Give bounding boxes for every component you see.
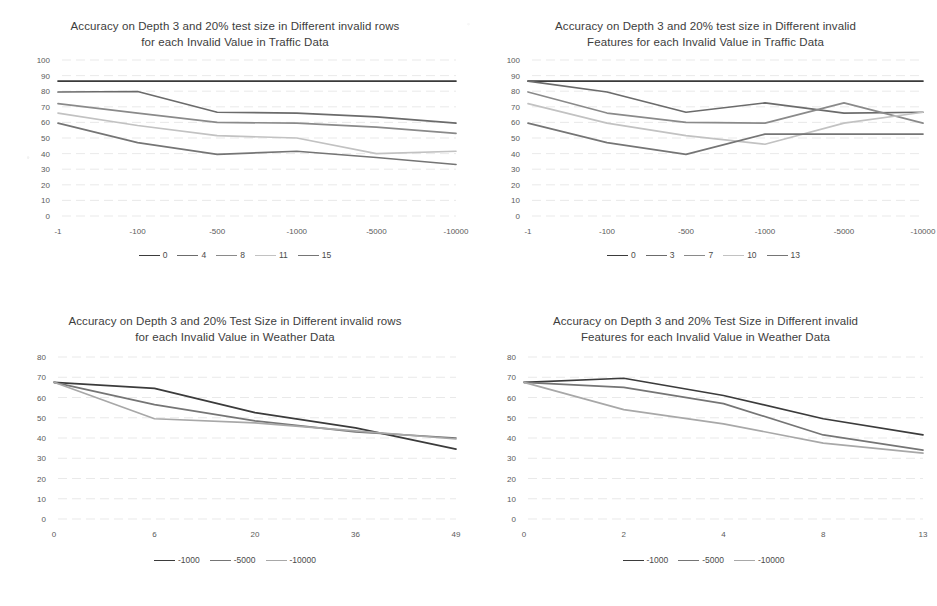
y-axis-tick-label: 20 (41, 181, 50, 190)
legend-item[interactable]: 0 (139, 250, 168, 260)
chart-grid: Accuracy on Depth 3 and 20% test size in… (0, 0, 937, 606)
legend-swatch (255, 255, 276, 256)
y-axis-tick-label: 80 (507, 353, 516, 362)
legend-label: -1000 (178, 555, 200, 565)
chart-title-line2: Features for each Invalid Value in Weath… (524, 329, 887, 345)
x-axis-tick-label: -100 (130, 227, 147, 236)
y-axis-tick-label: 30 (41, 165, 50, 174)
series-line (528, 123, 923, 154)
chart-legend: 0371013 (470, 250, 937, 260)
x-axis-tick-label: 49 (452, 530, 461, 539)
y-axis-tick-label: 40 (41, 150, 50, 159)
chart-panel-traffic-invalid-features: Accuracy on Depth 3 and 20% test size in… (470, 0, 937, 303)
y-axis-tick-label: 20 (37, 475, 46, 484)
y-axis-tick-label: 30 (511, 165, 520, 174)
legend-label: 10 (747, 250, 756, 260)
legend-swatch (678, 560, 699, 561)
chart-legend: -1000-5000-10000 (0, 555, 470, 565)
plot-area: 01020304050607080024813 (470, 345, 937, 555)
legend-swatch (177, 255, 198, 256)
legend-swatch (723, 255, 744, 256)
x-axis-tick-label: -5000 (834, 227, 855, 236)
y-axis-tick-label: 70 (41, 103, 50, 112)
legend-label: 0 (163, 250, 168, 260)
series-line (524, 378, 923, 435)
legend-item[interactable]: -1000 (154, 555, 200, 565)
x-axis-tick-label: -1000 (755, 227, 776, 236)
legend-item[interactable]: 3 (646, 250, 675, 260)
y-axis-tick-label: 100 (507, 56, 521, 65)
legend-item[interactable]: 10 (723, 250, 756, 260)
series-line (54, 382, 456, 439)
chart-legend: 0481115 (0, 250, 470, 260)
line-chart-svg: 0102030405060708090100-1-100-500-1000-50… (0, 50, 470, 250)
y-axis-tick-label: 70 (507, 373, 516, 382)
legend-swatch (266, 560, 287, 561)
legend-item[interactable]: -1000 (623, 555, 669, 565)
y-axis-tick-label: 0 (516, 212, 521, 221)
y-axis-tick-label: 10 (37, 495, 46, 504)
x-axis-tick-label: 2 (622, 530, 627, 539)
legend-item[interactable]: 4 (177, 250, 206, 260)
legend-item[interactable]: -10000 (266, 555, 316, 565)
legend-item[interactable]: -5000 (210, 555, 256, 565)
y-axis-tick-label: 0 (512, 515, 517, 524)
chart-title-line1: Accuracy on Depth 3 and 20% Test Size in… (44, 313, 426, 329)
legend-item[interactable]: -5000 (678, 555, 724, 565)
chart-panel-weather-invalid-features: Accuracy on Depth 3 and 20% Test Size in… (470, 303, 937, 606)
chart-title-line2: for each Invalid Value in Traffic Data (44, 34, 426, 50)
series-line (58, 92, 456, 124)
y-axis-tick-label: 20 (507, 475, 516, 484)
legend-swatch (734, 560, 755, 561)
series-line (524, 382, 923, 453)
legend-label: 15 (322, 250, 331, 260)
y-axis-tick-label: 100 (37, 56, 51, 65)
legend-item[interactable]: 11 (255, 250, 288, 260)
legend-item[interactable]: 15 (298, 250, 331, 260)
x-axis-tick-label: 13 (919, 530, 928, 539)
y-axis-tick-label: 40 (511, 150, 520, 159)
series-line (54, 382, 456, 449)
x-axis-tick-label: 36 (351, 530, 360, 539)
y-axis-tick-label: 40 (507, 434, 516, 443)
legend-swatch (216, 255, 237, 256)
legend-swatch (154, 560, 175, 561)
chart-title: Accuracy on Depth 3 and 20% Test Size in… (470, 303, 937, 345)
y-axis-tick-label: 50 (37, 414, 46, 423)
x-axis-tick-label: 8 (821, 530, 826, 539)
y-axis-tick-label: 90 (41, 72, 50, 81)
x-axis-tick-label: -10000 (911, 227, 936, 236)
legend-label: 11 (279, 250, 288, 260)
chart-panel-traffic-invalid-rows: Accuracy on Depth 3 and 20% test size in… (0, 0, 470, 303)
legend-label: 13 (791, 250, 800, 260)
legend-item[interactable]: -10000 (734, 555, 784, 565)
y-axis-tick-label: 60 (41, 118, 50, 127)
plot-area: 0102030405060708006203649 (0, 345, 470, 555)
legend-label: -10000 (758, 555, 784, 565)
y-axis-tick-label: 30 (37, 454, 46, 463)
chart-title-line2: Features for each Invalid Value in Traff… (526, 34, 885, 50)
legend-label: -5000 (702, 555, 724, 565)
y-axis-tick-label: 20 (511, 181, 520, 190)
chart-title-line1: Accuracy on Depth 3 and 20% Test Size in… (524, 313, 887, 329)
legend-swatch (623, 560, 644, 561)
legend-label: -10000 (290, 555, 316, 565)
x-axis-tick-label: -10000 (444, 227, 469, 236)
legend-item[interactable]: 0 (607, 250, 636, 260)
line-chart-svg: 0102030405060708006203649 (0, 345, 470, 555)
plot-area: 0102030405060708090100-1-100-500-1000-50… (0, 50, 470, 250)
legend-item[interactable]: 13 (767, 250, 800, 260)
x-axis-tick-label: -500 (209, 227, 226, 236)
legend-swatch (646, 255, 667, 256)
legend-item[interactable]: 7 (684, 250, 713, 260)
legend-item[interactable]: 8 (216, 250, 245, 260)
x-axis-tick-label: -1 (524, 227, 532, 236)
x-axis-tick-label: -5000 (366, 227, 387, 236)
y-axis-tick-label: 60 (507, 394, 516, 403)
legend-label: 0 (631, 250, 636, 260)
chart-title: Accuracy on Depth 3 and 20% test size in… (0, 0, 470, 50)
legend-swatch (298, 255, 319, 256)
y-axis-tick-label: 0 (46, 212, 51, 221)
plot-area: 0102030405060708090100-1-100-500-1000-50… (470, 50, 937, 250)
y-axis-tick-label: 10 (41, 196, 50, 205)
